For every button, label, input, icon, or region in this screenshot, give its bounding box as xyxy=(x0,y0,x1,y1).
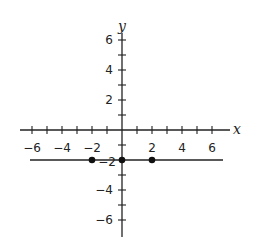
x-tick-label: 2 xyxy=(148,141,156,155)
x-tick-label: −2 xyxy=(83,141,101,155)
point-minus2-minus2 xyxy=(89,157,96,164)
x-tick-label: 4 xyxy=(178,141,186,155)
x-tick-label: 6 xyxy=(208,141,216,155)
y-tick-label: −2 xyxy=(98,155,116,169)
y-axis-label: y xyxy=(117,18,127,34)
y-tick-label: 4 xyxy=(105,63,113,77)
y-tick-label: −6 xyxy=(95,213,113,227)
y-tick-label: −4 xyxy=(95,183,113,197)
point-2-minus2 xyxy=(149,157,156,164)
x-tick-label: −6 xyxy=(23,141,41,155)
x-axis-label: x xyxy=(233,121,241,137)
y-tick-label: 2 xyxy=(105,93,113,107)
point-0-minus2 xyxy=(119,157,126,164)
x-tick-label: −4 xyxy=(53,141,71,155)
coordinate-plane: −6 −4 −2 2 4 6 6 4 2 −2 −4 −6 x y xyxy=(0,0,257,251)
y-tick-label: 6 xyxy=(105,33,113,47)
